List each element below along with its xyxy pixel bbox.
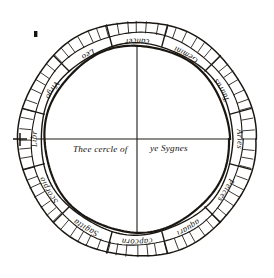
zodiac-label-cancer: cancer xyxy=(124,37,150,48)
caption-right: ye Sygnes xyxy=(149,143,188,153)
circle-of-signs-diagram: cancerGeminiTaurusAriesPelcesaquaricapco… xyxy=(0,0,274,278)
caption-left: Thee cercle of xyxy=(73,144,129,154)
zodiac-label-aries: Aries xyxy=(235,128,246,150)
zodiac-circle-figure: cancerGeminiTaurusAriesPelcesaquaricapco… xyxy=(0,0,274,278)
page-ink-mark xyxy=(34,31,37,37)
